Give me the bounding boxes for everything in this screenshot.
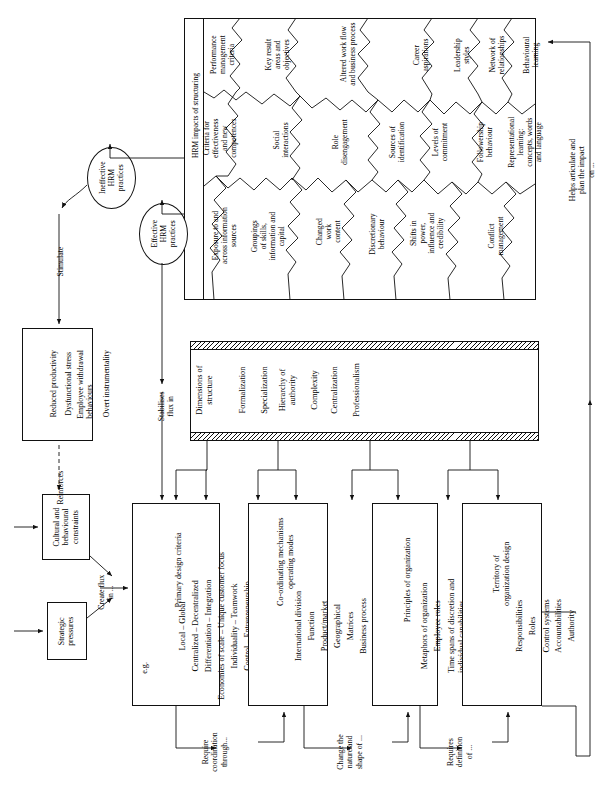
effective-hrm-label: Effective HRM practices	[150, 220, 177, 248]
jigsaw-label: Social interactions	[272, 122, 290, 157]
jigsaw-label: Behavioural learning	[523, 36, 541, 73]
edge-label-text: Change the nature and shape of ...	[336, 734, 364, 769]
edge-label-stimulate: Stimulate	[36, 222, 86, 302]
jigsaw-label: Conflict management	[487, 217, 505, 256]
jigsaw-label: Altered work flow and business process	[339, 22, 357, 85]
jigsaw-piece-key-result-areas-and-objectives: Key result areas and objectives	[243, 20, 313, 90]
jigsaw-piece-behavioural-learning: Behavioural learning	[497, 20, 567, 90]
outcome-text: Overt instrumentality	[101, 351, 110, 418]
strategic-pressures-label: Strategic pressures	[58, 616, 77, 645]
ineffective-hrm-label: Ineffective HRM practices	[98, 162, 125, 195]
jigsaw-label: Performance management criteria	[208, 36, 235, 75]
jigsaw-label: Key result areas and objectives	[264, 39, 291, 70]
edge-label-require-coordination-through: Require coordination through...	[183, 720, 247, 784]
edge-label-requires-definition-of: Requires definition of ...	[428, 720, 492, 784]
jigsaw-piece-altered-work-flow-and-business-process: Altered work flow and business process	[308, 14, 388, 94]
column-item-text: Authority	[567, 610, 577, 642]
edge-label-stabilises-flux-in: Stabilises flux in	[136, 376, 196, 436]
edge-label-text: Require coordination through...	[201, 732, 229, 771]
edge-label-text: Requires definition of ...	[446, 737, 474, 767]
jigsaw-label: Groupings of skills, information and cap…	[250, 212, 286, 261]
structure-item-text: Professionalism	[352, 363, 362, 417]
outcome-overt-instrumentality: Overt instrumentality	[70, 330, 142, 438]
ineffective-hrm-practices-node: Ineffective HRM practices	[87, 147, 136, 209]
structure-item-professionalism: Professionalism	[329, 352, 385, 428]
jigsaw-label: Role disengagement	[331, 119, 349, 165]
effective-hrm-practices-node: Effective HRM practices	[139, 203, 188, 265]
jigsaw-piece-conflict-management: Conflict management	[452, 192, 540, 280]
structure-bar-title-text: Dimensions of structure	[196, 365, 216, 414]
edge-label-text: Reinforces	[56, 471, 65, 505]
jigsaw-label: Shifts in power, influence and credibili…	[410, 212, 446, 253]
territory-item-4: Authority	[477, 556, 612, 696]
edge-label-create-flux-in: Create flux in ...	[76, 562, 136, 622]
structure-bar-bottom-hatch	[190, 432, 539, 441]
edge-label-change-the-nature-and-shape-of: Change the nature and shape of ...	[318, 720, 382, 784]
edge-label-text: Stabilises flux in	[157, 391, 176, 421]
jigsaw-label: Criteria for effectiveness and new compe…	[202, 118, 238, 158]
edge-label-text: Stimulate	[56, 247, 65, 277]
structure-bar-top-hatch	[190, 341, 539, 350]
edge-label-reinforces: Reinforces	[36, 448, 86, 528]
edge-label-text: Helps articulate and plan the impact on …	[568, 139, 596, 201]
edge-label-text: Create flux in ...	[97, 575, 116, 610]
figure-canvas: HRM impacts of structuring	[0, 0, 612, 790]
edge-label-helps-articulate: Helps articulate and plan the impact on …	[532, 120, 612, 220]
